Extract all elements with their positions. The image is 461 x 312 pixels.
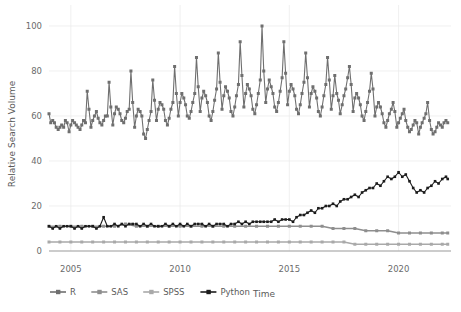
data-point-marker	[430, 184, 433, 187]
data-point-marker	[299, 225, 302, 228]
data-point-marker	[240, 74, 243, 77]
data-series	[48, 25, 450, 246]
data-point-marker	[131, 223, 134, 226]
data-point-marker	[339, 112, 342, 115]
data-point-marker	[357, 97, 360, 100]
data-point-marker	[348, 65, 351, 68]
x-tick-label: 2020	[388, 264, 410, 274]
data-point-marker	[384, 126, 387, 129]
data-point-marker	[257, 92, 260, 95]
data-point-marker	[199, 110, 202, 113]
data-point-marker	[423, 191, 426, 194]
legend-item-python[interactable]: Python	[200, 287, 249, 297]
data-point-marker	[415, 191, 418, 194]
data-point-marker	[48, 112, 51, 115]
data-point-marker	[164, 119, 167, 122]
data-point-marker	[379, 184, 382, 187]
data-point-marker	[353, 227, 356, 230]
data-point-marker	[177, 115, 180, 118]
data-point-marker	[155, 119, 158, 122]
data-point-marker	[310, 209, 313, 212]
data-point-marker	[233, 223, 236, 226]
y-tick-label: 0	[37, 246, 42, 256]
data-point-marker	[306, 76, 309, 79]
data-point-marker	[188, 117, 191, 120]
data-point-marker	[434, 180, 437, 183]
data-point-marker	[237, 83, 240, 86]
legend-item-spss[interactable]: SPSS	[143, 287, 184, 297]
data-point-marker	[275, 110, 278, 113]
data-point-marker	[255, 241, 258, 244]
data-point-marker	[229, 110, 232, 113]
legend-item-sas[interactable]: SAS	[91, 287, 128, 297]
data-point-marker	[255, 103, 258, 106]
x-axis-title-label: Time	[252, 289, 275, 299]
data-point-marker	[412, 187, 415, 190]
data-point-marker	[264, 101, 267, 104]
data-point-marker	[119, 112, 122, 115]
data-point-marker	[226, 225, 229, 228]
data-point-marker	[288, 90, 291, 93]
data-point-marker	[219, 223, 222, 226]
y-tick-labels: 020406080100	[26, 21, 42, 256]
data-point-marker	[233, 241, 236, 244]
data-point-marker	[299, 103, 302, 106]
data-point-marker	[242, 106, 245, 109]
data-point-marker	[55, 225, 58, 228]
data-point-marker	[190, 110, 193, 113]
legend-item-r[interactable]: R	[50, 287, 76, 297]
data-point-marker	[332, 94, 335, 97]
data-point-marker	[310, 225, 313, 228]
data-point-marker	[346, 76, 349, 79]
data-point-marker	[87, 108, 90, 111]
data-point-marker	[417, 133, 420, 136]
data-point-marker	[419, 232, 422, 235]
data-point-marker	[368, 187, 371, 190]
data-point-marker	[310, 241, 313, 244]
data-point-marker	[153, 225, 156, 228]
data-point-marker	[304, 52, 307, 55]
data-point-marker	[446, 178, 449, 181]
data-point-marker	[97, 117, 100, 120]
data-point-marker	[397, 121, 400, 124]
data-point-marker	[441, 243, 444, 246]
data-point-marker	[361, 191, 364, 194]
data-point-marker	[73, 227, 76, 230]
data-point-marker	[390, 108, 393, 111]
data-point-marker	[415, 121, 418, 124]
chart-container: 020406080100 2005201020152020 Relative S…	[0, 0, 461, 312]
data-point-marker	[215, 223, 218, 226]
data-point-marker	[270, 220, 273, 223]
x-tick-label: 2010	[169, 264, 191, 274]
data-point-marker	[139, 110, 142, 113]
data-point-marker	[404, 119, 407, 122]
data-point-marker	[399, 117, 402, 120]
data-point-marker	[342, 227, 345, 230]
data-point-marker	[408, 243, 411, 246]
data-point-marker	[359, 103, 362, 106]
chart-legend[interactable]: RSASSPSSPython	[50, 287, 250, 297]
data-point-marker	[102, 216, 105, 219]
data-point-marker	[179, 241, 182, 244]
data-point-marker	[217, 52, 220, 55]
data-point-marker	[419, 126, 422, 129]
data-point-marker	[48, 241, 51, 244]
data-point-marker	[401, 112, 404, 115]
data-point-marker	[244, 92, 247, 95]
data-point-marker	[93, 115, 96, 118]
data-point-marker	[292, 220, 295, 223]
data-point-marker	[412, 124, 415, 127]
data-point-marker	[303, 214, 306, 217]
data-point-marker	[68, 130, 71, 133]
data-point-marker	[341, 103, 344, 106]
x-axis-title: Time	[252, 289, 275, 299]
data-point-marker	[166, 124, 169, 127]
data-point-marker	[321, 241, 324, 244]
data-point-marker	[113, 112, 116, 115]
data-point-marker	[208, 115, 211, 118]
data-point-marker	[266, 220, 269, 223]
data-point-marker	[190, 241, 193, 244]
data-point-marker	[301, 92, 304, 95]
data-point-marker	[394, 175, 397, 178]
data-point-marker	[386, 229, 389, 232]
